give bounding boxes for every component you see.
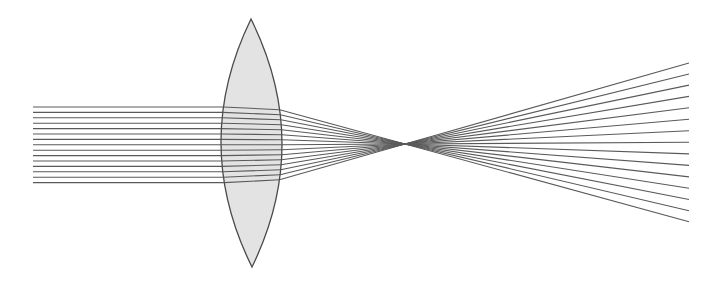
- light-ray: [33, 107, 689, 222]
- lens-ray-diagram: [0, 0, 726, 283]
- light-ray-in-lens: [221, 134, 282, 135]
- convex-lens: [221, 19, 282, 267]
- light-ray: [33, 74, 689, 177]
- light-rays: [33, 63, 689, 222]
- light-ray: [33, 112, 689, 210]
